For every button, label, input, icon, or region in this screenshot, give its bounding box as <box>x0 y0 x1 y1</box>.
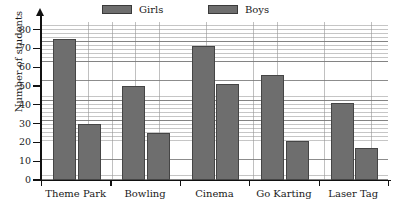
y-tick <box>33 161 40 162</box>
bar-theme-park-boys <box>78 124 101 180</box>
y-tick-label: 70 <box>7 43 31 53</box>
y-tick-label-wrap: 20 <box>0 137 31 147</box>
y-tick-label: 80 <box>7 25 31 35</box>
y-tick <box>33 48 40 49</box>
y-tick-label-wrap: 80 <box>0 25 31 35</box>
x-tick <box>180 180 181 186</box>
y-tick-label-wrap: 0 <box>0 175 31 185</box>
bar-go-karting-boys <box>286 141 309 181</box>
y-tick-label-wrap: 60 <box>0 62 31 72</box>
y-tick-label: 50 <box>7 81 31 91</box>
bar-bowling-girls <box>122 86 145 180</box>
y-tick-label: 0 <box>7 175 31 185</box>
x-label-theme-park: Theme Park <box>41 188 110 200</box>
y-axis-line <box>40 14 42 181</box>
x-tick <box>110 180 111 186</box>
legend-label-girls: Girls <box>139 4 163 15</box>
x-tick <box>388 180 389 186</box>
y-tick <box>33 67 40 68</box>
x-label-cinema: Cinema <box>180 188 249 200</box>
chart-legend: Girls Boys <box>0 0 393 20</box>
bar-laser-tag-girls <box>331 103 354 180</box>
y-tick-label-wrap: 40 <box>0 100 31 110</box>
bar-laser-tag-boys <box>355 148 378 180</box>
legend-swatch-girls <box>102 5 132 14</box>
legend-entry-boys: Boys <box>208 1 269 17</box>
x-label-go-karting: Go Karting <box>249 188 318 200</box>
bar-cinema-girls <box>192 46 215 180</box>
y-tick-label: 10 <box>7 156 31 166</box>
y-tick-label: 30 <box>7 119 31 129</box>
legend-label-boys: Boys <box>245 4 269 15</box>
plot-area <box>41 22 388 180</box>
y-tick-label: 60 <box>7 62 31 72</box>
y-axis-arrow-icon <box>36 8 44 16</box>
x-tick <box>41 180 42 186</box>
x-axis-line <box>33 180 391 182</box>
bar-theme-park-girls <box>53 39 76 180</box>
x-tick <box>319 180 320 186</box>
y-tick-label-wrap: 70 <box>0 43 31 53</box>
legend-entry-girls: Girls <box>102 1 163 17</box>
y-tick-label-wrap: 10 <box>0 156 31 166</box>
y-tick <box>33 123 40 124</box>
bar-chart: Girls Boys Number of students 0102030405… <box>0 0 393 208</box>
bar-bowling-boys <box>147 133 170 180</box>
x-label-laser-tag: Laser Tag <box>319 188 388 200</box>
y-tick-label: 40 <box>7 100 31 110</box>
bar-cinema-boys <box>216 84 239 180</box>
y-tick <box>33 29 40 30</box>
y-tick <box>33 142 40 143</box>
legend-swatch-boys <box>208 5 238 14</box>
x-tick <box>249 180 250 186</box>
x-label-bowling: Bowling <box>110 188 179 200</box>
bar-go-karting-girls <box>261 75 284 180</box>
y-tick-label: 20 <box>7 137 31 147</box>
y-tick <box>33 104 40 105</box>
y-tick <box>33 85 40 86</box>
y-tick-label-wrap: 30 <box>0 119 31 129</box>
y-tick-label-wrap: 50 <box>0 81 31 91</box>
